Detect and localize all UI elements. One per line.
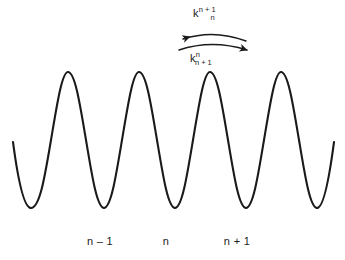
- site-label-n: n: [163, 236, 169, 247]
- diagram-canvas: [0, 0, 345, 260]
- rate-subscript: n + 1: [195, 58, 212, 67]
- rate-subscript: n: [211, 13, 215, 22]
- rate-constant-label-backward: knn + 1: [190, 53, 212, 64]
- rate-constant-label-forward: kn + 1n: [193, 8, 215, 19]
- backward-transition-arrow: [183, 34, 246, 41]
- periodic-potential-curve: [13, 72, 334, 208]
- site-label-n-minus-1: n – 1: [87, 236, 113, 247]
- transition-arrows-group: [179, 34, 247, 50]
- site-label-n-plus-1: n + 1: [224, 236, 250, 247]
- forward-transition-arrow: [179, 45, 247, 51]
- potential-energy-diagram: kn + 1n knn + 1 n – 1 n n + 1: [0, 0, 345, 260]
